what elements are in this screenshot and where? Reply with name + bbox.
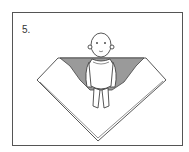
swaddle-illustration: [0, 0, 189, 152]
